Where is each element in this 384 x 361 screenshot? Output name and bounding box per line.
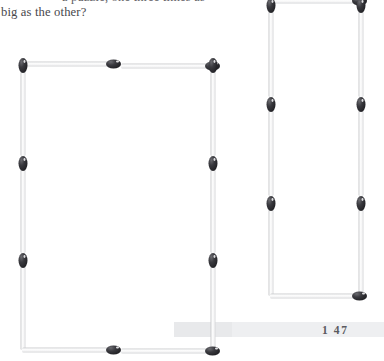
- match-head-icon: [266, 97, 275, 112]
- match-head-icon: [352, 291, 367, 300]
- match-head-icon: [356, 196, 365, 211]
- match-left-rightside-3: [207, 253, 218, 350]
- question-text-line: big as the other?: [1, 5, 86, 20]
- match-stick-body: [358, 0, 363, 97]
- match-left-top-2: [121, 60, 220, 71]
- match-stick-body: [268, 0, 273, 97]
- match-right-rightside-2: [355, 97, 366, 196]
- match-left-side-1: [17, 58, 28, 156]
- match-head-icon: [205, 346, 220, 355]
- match-left-rightside-1: [207, 58, 218, 156]
- match-left-side-3: [17, 253, 28, 350]
- match-right-bottom-1: [270, 290, 367, 301]
- match-left-side-2: [17, 156, 28, 253]
- right-rectangle-figure: [0, 0, 384, 361]
- clipped-text-line: a puzzle, one three times as: [62, 0, 362, 4]
- match-head-icon: [106, 59, 121, 68]
- footer-band-secondary: [232, 322, 384, 337]
- match-right-side-3: [265, 196, 276, 296]
- match-stick-body: [268, 196, 273, 296]
- match-left-bottom-1: [22, 344, 121, 355]
- page-number: 1 47: [322, 324, 349, 336]
- match-head-icon: [18, 156, 27, 171]
- book-page: a puzzle, one three times as big as the …: [0, 0, 384, 361]
- match-right-rightside-3: [355, 196, 366, 296]
- match-stick-body: [358, 196, 363, 296]
- match-right-rightside-1: [355, 0, 366, 97]
- match-left-top-1: [22, 58, 121, 69]
- match-left-bottom-2: [121, 345, 220, 356]
- match-right-side-1: [265, 0, 276, 97]
- match-head-icon: [208, 156, 217, 171]
- match-right-side-2: [265, 97, 276, 196]
- match-head-icon: [18, 253, 27, 268]
- match-head-icon: [266, 196, 275, 211]
- match-head-icon: [18, 58, 27, 73]
- match-head-icon: [208, 253, 217, 268]
- match-head-icon: [208, 58, 217, 73]
- match-head-icon: [356, 97, 365, 112]
- match-head-icon: [106, 345, 121, 354]
- match-left-rightside-2: [207, 156, 218, 253]
